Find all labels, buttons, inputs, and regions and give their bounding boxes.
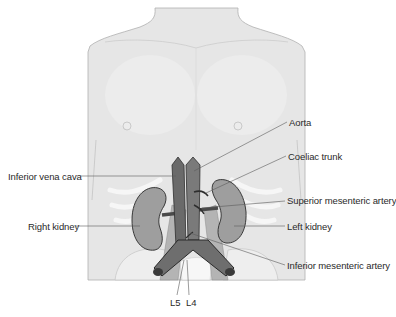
label-inferior-mesenteric-artery: Inferior mesenteric artery bbox=[287, 260, 390, 271]
label-right-kidney: Right kidney bbox=[28, 221, 79, 232]
aorta-shape bbox=[186, 157, 200, 240]
label-aorta: Aorta bbox=[289, 117, 311, 128]
label-inferior-vena-cava: Inferior vena cava bbox=[8, 171, 82, 182]
label-superior-mesenteric-artery: Superior mesenteric artery bbox=[287, 195, 396, 206]
label-left-kidney: Left kidney bbox=[287, 221, 332, 232]
label-l4: L4 bbox=[186, 297, 196, 308]
label-l5: L5 bbox=[170, 297, 180, 308]
label-coeliac-trunk: Coeliac trunk bbox=[288, 151, 342, 162]
